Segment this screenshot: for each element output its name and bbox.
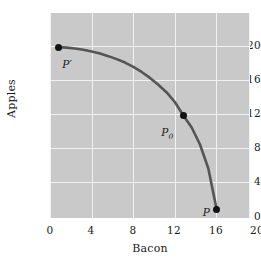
- x-tick-label: 0: [35, 225, 65, 236]
- y-axis-title: Apples: [5, 69, 18, 129]
- frontier-polyline: [58, 47, 216, 209]
- x-tick-label: 4: [76, 225, 106, 236]
- plot-area: P′P0P: [50, 13, 250, 218]
- data-point-label: P0: [161, 127, 173, 142]
- x-axis-title: Bacon: [50, 242, 250, 255]
- data-point-marker: [180, 112, 187, 119]
- x-tick-label: 12: [159, 225, 189, 236]
- x-tick-label: 8: [118, 225, 148, 236]
- x-tick-label: 20: [242, 225, 261, 236]
- data-point-marker: [55, 44, 62, 51]
- chart-figure: 20 16 12 8 4 0 0 4 8 12 16 20 Apples Bac…: [0, 0, 261, 264]
- x-tick-label: 16: [201, 225, 231, 236]
- data-point-label: P′: [62, 59, 71, 70]
- frontier-curve: [50, 13, 250, 218]
- data-point-label: P: [203, 207, 210, 218]
